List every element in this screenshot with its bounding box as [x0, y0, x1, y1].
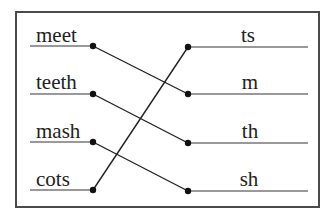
connector-cots-ts [93, 47, 188, 190]
dot-m[interactable] [185, 91, 191, 97]
word-ts: ts [241, 23, 255, 47]
connector-mash-sh [93, 142, 188, 191]
word-sh: sh [240, 167, 259, 191]
dot-ts[interactable] [185, 44, 191, 50]
word-m: m [242, 70, 258, 94]
word-meet: meet [36, 23, 77, 47]
matching-diagram: meet teeth mash cots ts m th sh [0, 0, 335, 219]
dot-meet[interactable] [90, 43, 96, 49]
word-teeth: teeth [36, 70, 77, 94]
dot-mash[interactable] [90, 139, 96, 145]
connector-meet-m [93, 46, 188, 94]
dot-cots[interactable] [90, 187, 96, 193]
dot-th[interactable] [185, 140, 191, 146]
word-th: th [242, 119, 259, 143]
word-mash: mash [36, 119, 81, 143]
dot-sh[interactable] [185, 188, 191, 194]
word-cots: cots [36, 167, 70, 191]
dot-teeth[interactable] [90, 91, 96, 97]
